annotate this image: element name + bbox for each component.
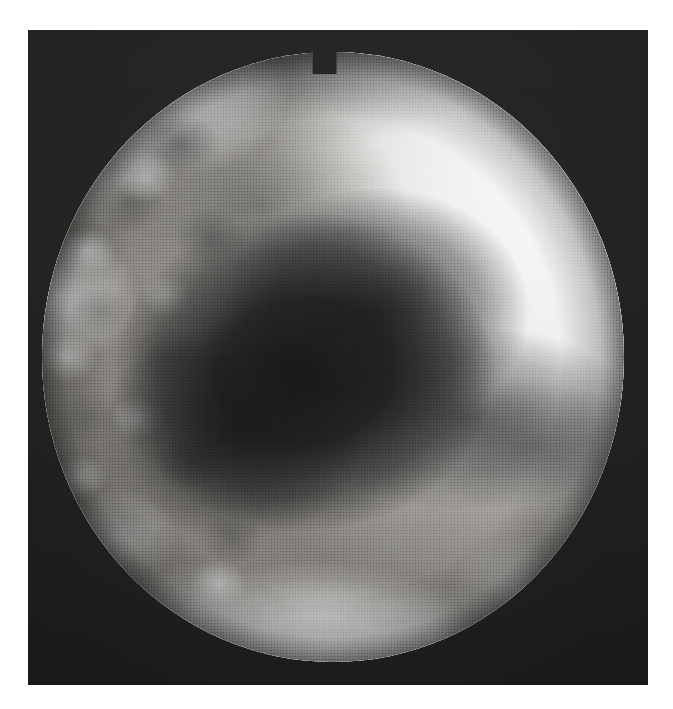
dark-central-mass [42, 52, 624, 662]
dark-mass-extension [42, 52, 624, 662]
bright-right-limb [42, 52, 624, 662]
mottled-left-highlights [42, 52, 624, 662]
halftone-screen-texture [42, 52, 624, 662]
circular-field-of-view [42, 52, 624, 662]
right-rim-shadow [42, 52, 624, 662]
field-of-view-content [42, 52, 624, 662]
bright-basal-cloud [42, 52, 624, 662]
scan-grain-texture [42, 52, 624, 662]
peripheral-vignette [42, 52, 624, 662]
bright-upper-right-zone [42, 52, 624, 662]
bright-upper-left-lobe [42, 52, 624, 662]
figure-root [0, 0, 673, 709]
base-tone-layer [42, 52, 624, 662]
mottled-left-field [42, 52, 624, 662]
superior-grey-band [42, 52, 624, 662]
photographic-plate [28, 30, 648, 685]
